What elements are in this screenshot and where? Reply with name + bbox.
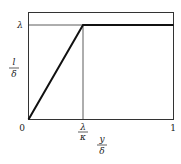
y-tick-lambda: λ [16, 20, 23, 30]
x-tick-knee-numerator: λ [79, 122, 86, 132]
data-series-line [29, 25, 174, 120]
x-tick-origin: 0 [19, 123, 25, 133]
mixing-length-chart: λ l δ 0 1 λ κ y δ [0, 0, 181, 164]
x-tick-knee-denominator: κ [79, 132, 86, 142]
x-axis-label-denominator: δ [99, 146, 104, 156]
x-tick-one: 1 [170, 123, 176, 133]
y-axis-label-denominator: δ [11, 69, 16, 79]
y-axis-label-numerator: l [13, 57, 16, 67]
x-axis-label-numerator: y [98, 134, 105, 144]
plot-frame [29, 13, 174, 120]
